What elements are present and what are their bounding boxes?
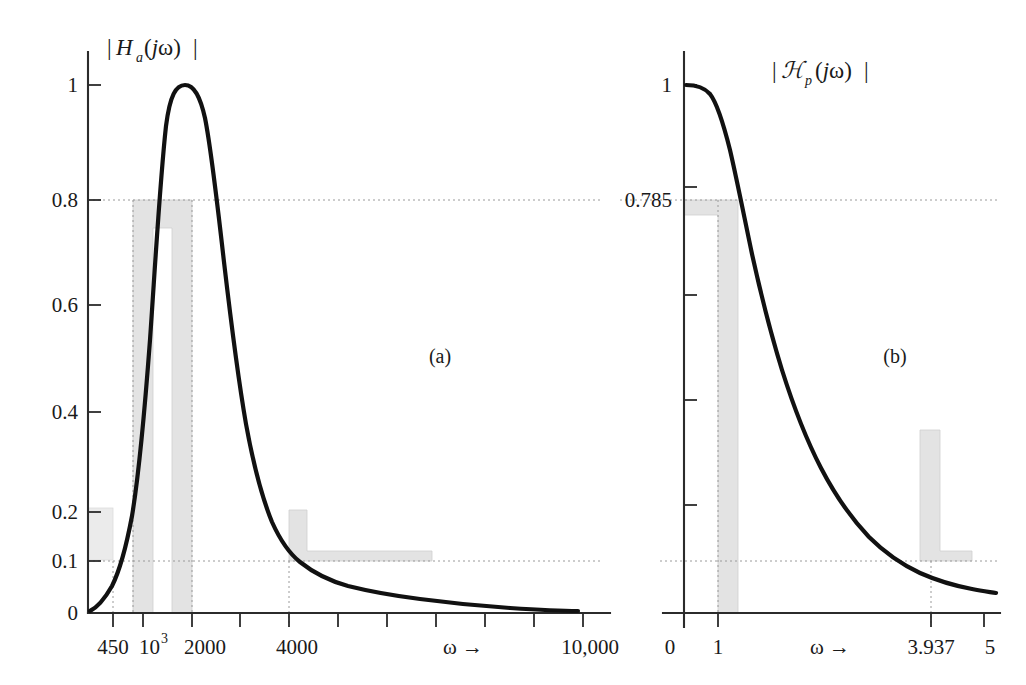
panel-a-xtick-450: 450	[97, 635, 129, 659]
panel-b-axis-title: | ℋ p (jω) |	[772, 58, 869, 88]
panel-b: 1 0.785 0 1 3.937 5 ω → | ℋ p (jω) |	[620, 52, 1000, 659]
panel-b-axis-title-bar-left: |	[772, 58, 777, 83]
panel-a-xtick-2000: 2000	[184, 635, 226, 659]
panel-a-response-curve	[90, 85, 578, 611]
panel-b-label: (b)	[883, 345, 906, 368]
figure-page: 1 0.8 0.6 0.4 0.2 0.1 0 450	[0, 0, 1026, 685]
panel-a-axis-title: | H a (jω) |	[107, 35, 198, 65]
panel-a: 1 0.8 0.6 0.4 0.2 0.1 0 450	[52, 35, 619, 659]
panel-a-xtick-1000: 10 3	[139, 631, 168, 659]
panel-a-ytick-06: 0.6	[52, 293, 78, 317]
panel-b-axis-title-bar-right: |	[864, 58, 869, 83]
panel-a-xtick-4000: 4000	[276, 635, 318, 659]
panel-a-ytick-01: 0.1	[52, 549, 78, 573]
panel-a-axis-title-H: H	[115, 35, 134, 60]
panel-b-axis-title-arg: (jω)	[815, 58, 852, 83]
panel-b-y-ticks	[684, 85, 697, 505]
panel-a-passband-region	[133, 200, 192, 613]
panel-a-stopband-left-block	[88, 508, 113, 560]
panel-b-guides	[620, 200, 1000, 627]
panel-b-xtick-3937: 3.937	[907, 635, 954, 659]
panel-a-ytick-02: 0.2	[52, 500, 78, 524]
panel-b-tolerance-bands	[684, 200, 972, 613]
panel-a-axis-title-arg: (jω)	[144, 35, 181, 60]
panel-b-xtick-1: 1	[713, 635, 724, 659]
panel-b-stopband-region	[920, 430, 972, 561]
panel-a-axis-title-subscript: a	[136, 50, 143, 65]
panel-a-stopband-right-region	[289, 510, 432, 561]
panel-a-guides	[88, 200, 600, 627]
two-panel-magnitude-response-figure: 1 0.8 0.6 0.4 0.2 0.1 0 450	[0, 0, 1026, 685]
panel-a-ytick-0: 0	[68, 601, 79, 625]
panel-a-xtick-1000-exponent: 3	[161, 631, 168, 646]
panel-a-label: (a)	[429, 345, 451, 368]
panel-a-y-ticks	[88, 85, 101, 561]
panel-a-axis-title-bar-right: |	[193, 35, 198, 60]
panel-a-ytick-04: 0.4	[52, 400, 79, 424]
panel-b-ytick-1: 1	[662, 73, 673, 97]
panel-a-x-axis-label: ω →	[443, 635, 483, 659]
panel-b-xtick-5: 5	[985, 635, 996, 659]
panel-a-x-ticks	[113, 613, 583, 627]
panel-b-x-ticks	[718, 613, 984, 627]
panel-b-axis-title-subscript: p	[804, 73, 812, 88]
panel-a-axis-title-bar-left: |	[107, 35, 112, 60]
panel-a-ytick-1: 1	[68, 73, 79, 97]
panel-a-xtick-10000: 10,000	[561, 635, 619, 659]
panel-b-ytick-0785: 0.785	[625, 188, 672, 212]
panel-a-xtick-1000-base: 10	[139, 635, 160, 659]
panel-a-ytick-08: 0.8	[52, 188, 78, 212]
panel-b-passband-region	[684, 200, 738, 613]
panel-b-xtick-0: 0	[665, 635, 676, 659]
panel-b-axis-title-H: ℋ	[781, 58, 807, 83]
panel-a-tolerance-bands	[88, 200, 432, 613]
panel-b-x-axis-label: ω →	[810, 635, 850, 659]
